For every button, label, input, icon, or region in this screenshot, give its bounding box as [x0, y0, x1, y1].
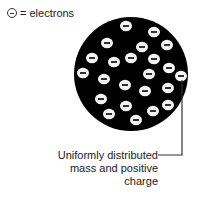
caption-line-2: mass and positive: [58, 162, 158, 175]
caption-line-1: Uniformly distributed: [58, 149, 158, 162]
caption: Uniformly distributed mass and positive …: [58, 149, 158, 188]
positive-sphere: [74, 17, 188, 131]
caption-line-3: charge: [58, 175, 158, 188]
